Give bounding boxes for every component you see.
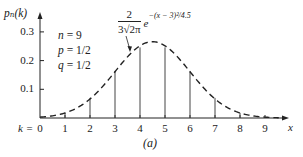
figure-caption: (a) bbox=[143, 136, 157, 151]
formula-exponential: e−(x − 3)²/4.5 bbox=[144, 15, 191, 29]
y-axis-label: pₙ(k) bbox=[4, 8, 27, 20]
y-tick-label: 0.2 bbox=[6, 55, 34, 66]
formula-pointer-arrow-icon bbox=[128, 46, 133, 52]
x-tick-label: 5 bbox=[162, 123, 168, 134]
y-ticks bbox=[40, 32, 44, 89]
param-q: q = 1/2 bbox=[58, 58, 91, 73]
x-axis-arrow-icon bbox=[282, 116, 289, 121]
x-tick-label: 7 bbox=[212, 123, 218, 134]
x-tick-label: 6 bbox=[187, 123, 193, 134]
param-n: n = 9 bbox=[58, 28, 91, 43]
y-tick-label: 0.3 bbox=[6, 26, 34, 37]
k-prefix: k = bbox=[18, 123, 33, 134]
binomial-stems bbox=[65, 47, 240, 118]
x-tick-label: 4 bbox=[137, 123, 143, 134]
y-axis-arrow-icon bbox=[38, 12, 43, 19]
x-tick-label: 0 bbox=[37, 123, 43, 134]
parameter-block: n = 9 p = 1/2 q = 1/2 bbox=[58, 28, 91, 73]
formula-fraction: 2 3√2π bbox=[118, 8, 141, 35]
formula-denominator: 3√2π bbox=[118, 22, 141, 35]
x-tick-label: 3 bbox=[112, 123, 118, 134]
x-tick-label: 9 bbox=[262, 123, 268, 134]
x-tick-label: 1 bbox=[62, 123, 68, 134]
x-tick-label: 8 bbox=[237, 123, 243, 134]
param-p: p = 1/2 bbox=[58, 43, 91, 58]
normal-formula-annotation: 2 3√2π e−(x − 3)²/4.5 bbox=[118, 8, 191, 35]
x-axis-label: x bbox=[288, 122, 293, 133]
x-tick-label: 2 bbox=[87, 123, 93, 134]
y-tick-label: 0.1 bbox=[6, 83, 34, 94]
formula-numerator: 2 bbox=[118, 8, 141, 22]
formula-exponent: −(x − 3)²/4.5 bbox=[148, 11, 190, 20]
